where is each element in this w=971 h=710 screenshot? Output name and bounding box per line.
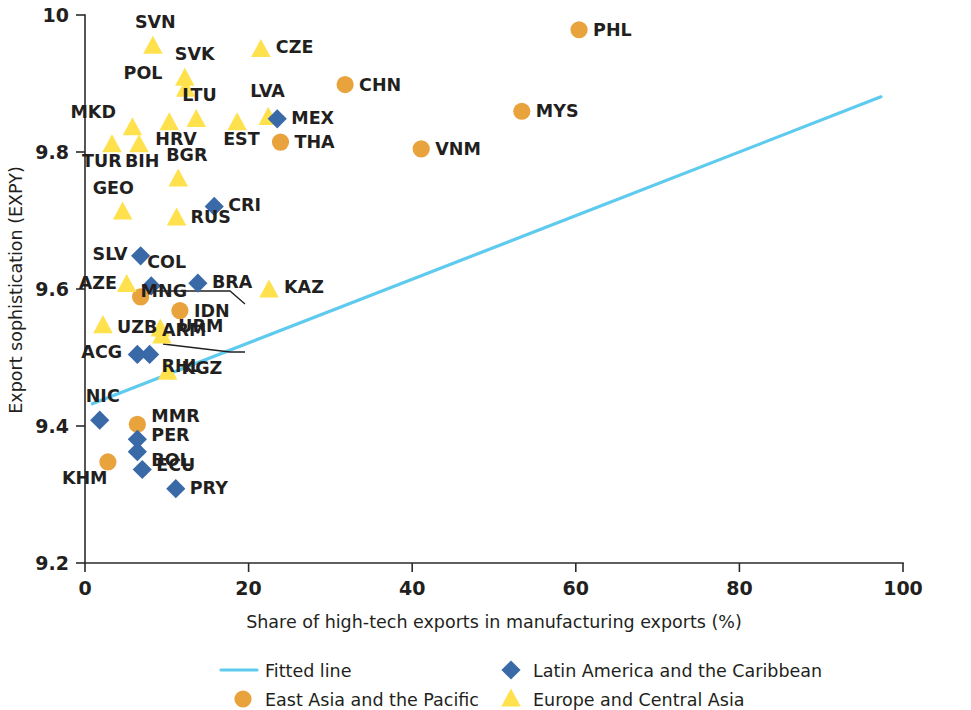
y-tick-label: 10 [43, 4, 69, 26]
data-point-nic [90, 411, 109, 430]
point-label-acg: ACG [81, 342, 122, 362]
data-point-phl [570, 21, 587, 38]
point-label-geo: GEO [93, 178, 134, 198]
legend-label: Latin America and the Caribbean [533, 661, 822, 681]
x-tick-label: 80 [726, 577, 752, 599]
x-tick-label: 0 [78, 577, 91, 599]
point-label-bra: BRA [212, 272, 253, 292]
legend-label: Europe and Central Asia [533, 690, 745, 710]
y-axis-ticks: 9.29.49.69.810 [35, 4, 85, 574]
data-point-geo [113, 201, 133, 219]
data-point-mkd [123, 117, 143, 135]
point-label-svn: SVN [135, 12, 176, 32]
point-label-vnm: VNM [435, 139, 481, 159]
point-label-mkd: MKD [70, 102, 116, 122]
point-label-col: COL [147, 252, 186, 272]
point-label-pol: POL [124, 63, 163, 83]
data-point-tha [272, 133, 289, 150]
legend-label: East Asia and the Pacific [265, 690, 479, 710]
point-label-kaz: KAZ [284, 277, 324, 297]
point-label-tur: TUR [82, 151, 122, 171]
data-point-hrv [160, 112, 180, 130]
data-point-vnm [413, 140, 430, 157]
point-label-svk: SVK [175, 44, 216, 64]
data-point-ltu [186, 109, 206, 127]
point-label-aze: AZE [79, 273, 117, 293]
point-label-urm: URM [178, 316, 223, 336]
y-tick-label: 9.4 [35, 415, 69, 437]
point-label-khm: KHM [62, 468, 108, 488]
data-point-bih [129, 134, 149, 152]
scatter-chart-figure: 9.29.49.69.810 020406080100 Export sophi… [0, 0, 971, 710]
y-tick-label: 9.6 [35, 278, 69, 300]
point-label-cri: CRI [228, 195, 261, 215]
legend-item-fitted-line[interactable]: Fitted line [221, 661, 351, 681]
data-point-ecu [133, 460, 152, 479]
point-label-chn: CHN [359, 75, 401, 95]
x-tick-label: 20 [235, 577, 261, 599]
export-sophistication-scatter-plot: 9.29.49.69.810 020406080100 Export sophi… [0, 0, 971, 710]
point-label-lva: LVA [250, 81, 285, 101]
point-label-mmr: MMR [151, 406, 200, 426]
chart-legend: Fitted lineLatin America and the Caribbe… [221, 660, 822, 710]
point-label-nic: NIC [86, 386, 120, 406]
data-point-bol [128, 442, 147, 461]
data-point-rhl [140, 345, 159, 364]
point-label-uzb: UZB [117, 317, 157, 337]
data-point-mys [513, 103, 530, 120]
point-label-mng: MNG [141, 281, 187, 301]
point-label-bgr: BGR [166, 145, 208, 165]
data-point-kaz [259, 279, 279, 297]
y-tick-label: 9.2 [35, 552, 69, 574]
x-tick-label: 60 [563, 577, 589, 599]
data-point-uzb [93, 315, 113, 333]
point-label-ecu: ECU [156, 455, 195, 475]
point-label-tha: THA [295, 132, 336, 152]
point-label-per: PER [151, 425, 190, 445]
x-tick-label: 40 [399, 577, 425, 599]
legend-label: Fitted line [265, 661, 351, 681]
data-point-rus [167, 208, 187, 226]
data-point-est [227, 112, 247, 130]
point-label-rus: RUS [191, 207, 231, 227]
data-point-pry [166, 479, 185, 498]
legend-triangle-swatch [501, 688, 521, 706]
point-label-rhl: RHL [162, 356, 201, 376]
point-label-mys: MYS [536, 101, 579, 121]
data-point-aze [117, 274, 137, 292]
legend-item-latin-america-caribbean[interactable]: Latin America and the Caribbean [501, 660, 822, 681]
data-point-chn [337, 76, 354, 93]
legend-item-east-asia-pacific[interactable]: East Asia and the Pacific [234, 690, 479, 710]
point-label-phl: PHL [593, 20, 632, 40]
point-label-ltu: LTU [182, 85, 216, 105]
data-point-cze [251, 39, 271, 57]
point-label-slv: SLV [93, 244, 128, 264]
legend-diamond-swatch [501, 660, 520, 679]
data-point-bra [188, 274, 207, 293]
point-label-mex: MEX [291, 108, 334, 128]
x-axis-ticks: 020406080100 [78, 563, 922, 599]
point-label-cze: CZE [276, 37, 314, 57]
point-label-est: EST [223, 129, 260, 149]
data-point-svn [143, 36, 163, 54]
y-axis-title: Export sophistication (EXPY) [6, 166, 26, 414]
point-label-pry: PRY [190, 478, 228, 498]
x-axis-title: Share of high-tech exports in manufactur… [246, 612, 742, 632]
x-tick-label: 100 [883, 577, 923, 599]
legend-item-europe-central-asia[interactable]: Europe and Central Asia [501, 688, 744, 710]
y-tick-label: 9.8 [35, 141, 69, 163]
data-point-bgr [169, 169, 189, 187]
legend-circle-swatch [234, 690, 251, 707]
data-point-tur [102, 134, 122, 152]
point-label-bih: BIH [125, 151, 160, 171]
